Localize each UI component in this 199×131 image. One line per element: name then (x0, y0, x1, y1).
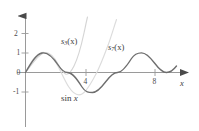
curve-label-s7: s7(x) (108, 43, 124, 52)
x-axis-label: x (180, 79, 184, 88)
y-tick-label-0: 0 (17, 69, 21, 77)
y-tick-label-minus1: -1 (13, 88, 19, 96)
curve-s7 (26, 20, 117, 95)
curve-label-s3: s3(x) (61, 37, 77, 46)
plot-canvas (0, 0, 199, 131)
y-tick-label-2: 2 (14, 30, 18, 38)
curve-s3 (26, 17, 88, 74)
curve-label-sin: sin x (61, 94, 78, 103)
y-tick-label-1: 1 (17, 49, 21, 57)
x-tick-label-8: 8 (153, 78, 157, 86)
s7-argument: (x) (114, 42, 124, 52)
sine-approximation-figure: 2 1 0 -1 4 8 x s3(x) s7(x) sin x (0, 0, 199, 131)
sin-function-name: sin (61, 93, 72, 103)
s3-argument: (x) (67, 36, 77, 46)
x-tick-label-4: 4 (84, 78, 88, 86)
sin-argument: x (74, 93, 78, 103)
